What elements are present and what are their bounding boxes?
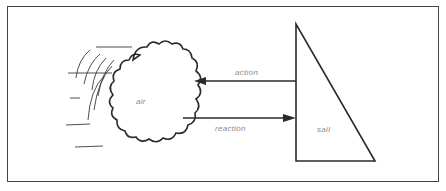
action-arrow [194,77,296,85]
action-label: action [235,68,258,77]
air-label: air [136,97,146,106]
air-cloud [110,41,201,142]
sail-label: sail [317,125,330,134]
reaction-arrow [183,114,296,122]
air-sail-diagram [0,0,446,191]
sail-triangle [296,24,375,161]
reaction-label: reaction [215,124,246,133]
